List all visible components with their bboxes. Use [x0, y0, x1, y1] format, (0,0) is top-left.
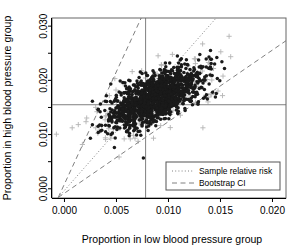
legend-label: Bootstrap CI: [199, 178, 246, 188]
y-tick-label: 0.010: [39, 122, 50, 147]
y-tick-label: 0.030: [39, 13, 50, 38]
y-tick-label: 0.020: [39, 67, 50, 92]
legend-box: Sample relative riskBootstrap CI: [166, 162, 280, 190]
y-axis-title: Proportion in high blood pressure group: [1, 16, 13, 201]
x-tick-label: 0.010: [156, 205, 181, 216]
y-tick-label: 0.000: [39, 176, 50, 201]
legend-label: Sample relative risk: [199, 166, 273, 176]
plot-canvas: 0.0000.0050.0100.0150.020 0.0000.0100.02…: [0, 0, 294, 251]
scatter-plot-figure: 0.0000.0050.0100.0150.020 0.0000.0100.02…: [0, 0, 294, 251]
x-tick-label: 0.000: [52, 205, 77, 216]
x-tick-label: 0.015: [208, 205, 233, 216]
x-axis-title: Proportion in low blood pressure group: [82, 233, 263, 245]
x-tick-label: 0.020: [260, 205, 285, 216]
x-tick-label: 0.005: [104, 205, 129, 216]
